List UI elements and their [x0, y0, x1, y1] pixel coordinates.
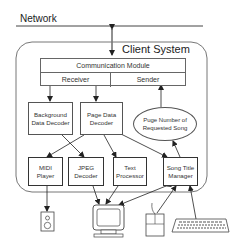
- page-data-decoder: Page Data Decoder: [80, 102, 123, 135]
- text-line2: Processor: [116, 172, 144, 180]
- communication-module: Communication Module Receiver Sender: [40, 58, 186, 86]
- requested-song-page-number: Puge Number of Requested Song: [133, 107, 197, 141]
- monitor-icon: [93, 205, 124, 237]
- jpeg-decoder: JPEG Decoder: [68, 157, 104, 186]
- song-title-manager: Song Title Manager: [163, 157, 198, 186]
- network-label: Network: [20, 13, 57, 24]
- mouse-icon: [146, 203, 164, 236]
- client-system-label: Client System: [122, 43, 190, 55]
- page-data-decoder-line1: Page Data: [87, 111, 116, 119]
- midi-player: MIDI Player: [28, 157, 63, 186]
- sender: Sender: [111, 73, 185, 87]
- jpeg-line2: Decoder: [74, 172, 97, 180]
- speaker-icon: [41, 212, 54, 231]
- receiver: Receiver: [41, 73, 111, 87]
- keyboard-icon: [172, 219, 229, 232]
- text-line1: Text: [116, 164, 144, 172]
- background-data-decoder: Background Data Decoder: [28, 102, 73, 135]
- background-decoder-line2: Data Decoder: [31, 119, 69, 127]
- jpeg-line1: JPEG: [74, 164, 97, 172]
- text-processor: Text Processor: [113, 157, 147, 186]
- ellipse-line2: Requested Song: [143, 124, 188, 132]
- ellipse-line1: Puge Number of: [143, 116, 188, 124]
- page-data-decoder-line2: Decoder: [87, 119, 116, 127]
- midi-line1: MIDI: [37, 164, 55, 172]
- song-title-line2: Manager: [167, 172, 195, 180]
- song-title-line1: Song Title: [167, 164, 195, 172]
- midi-line2: Player: [37, 172, 55, 180]
- communication-module-title: Communication Module: [41, 59, 185, 73]
- background-decoder-line1: Background: [31, 111, 69, 119]
